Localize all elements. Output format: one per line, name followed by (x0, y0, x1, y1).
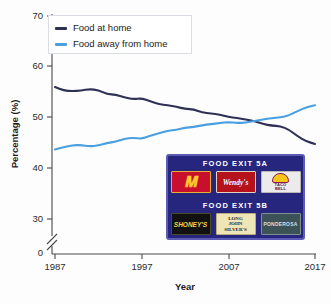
chart-figure: 70 60 50 40 30 0 1987 1997 2007 2017 Per… (0, 0, 331, 304)
taco-bell-line2: BELL (275, 187, 286, 191)
y-tick-label-40: 40 (32, 162, 43, 173)
series-line-food-away-from-home (55, 105, 315, 149)
taco-bell-logo-icon: TACO BELL (261, 171, 301, 193)
wendys-logo-icon: Wendy's (216, 171, 256, 193)
sign-heading-5a: FOOD EXIT 5A (203, 159, 268, 169)
ponderosa-logo-label: PONDEROSA (263, 221, 297, 227)
y-tick-label-60: 60 (32, 60, 43, 71)
legend-item-food-at-home: Food at home (55, 20, 185, 36)
x-tick-label-1997: 1997 (131, 261, 152, 272)
chart-legend: Food at home Food away from home (48, 15, 192, 54)
wendys-logo-label: Wendy's (223, 178, 249, 187)
legend-swatch-icon (55, 43, 67, 46)
y-tick-label-0: 0 (38, 247, 43, 258)
y-tick-label-70: 70 (32, 10, 43, 21)
series-line-food-at-home (55, 87, 315, 144)
ponderosa-logo-icon: PONDEROSA (261, 213, 301, 235)
x-tick-label-2017: 2017 (304, 261, 325, 272)
y-tick-label-50: 50 (32, 111, 43, 122)
legend-label: Food away from home (73, 39, 168, 49)
y-axis-title: Percentage (%) (9, 100, 20, 169)
legend-item-food-away-from-home: Food away from home (55, 36, 185, 52)
ljs-line3: SILVER'S (224, 227, 246, 232)
sign-section-5a: FOOD EXIT 5A 𝑴 Wendy's TACO BELL (172, 159, 299, 193)
mcdonalds-logo-icon: 𝑴 (171, 171, 211, 193)
y-tick-label-30: 30 (32, 213, 43, 224)
x-tick-label-2007: 2007 (218, 261, 239, 272)
legend-label: Food at home (73, 23, 132, 33)
logo-row-5a: 𝑴 Wendy's TACO BELL (171, 171, 301, 193)
golden-arches-icon: 𝑴 (185, 177, 196, 188)
shoneys-logo-icon: SHONEY'S (171, 213, 211, 235)
sign-section-5b: FOOD EXIT 5B SHONEY'S LONG JOHN SILVER'S… (172, 201, 299, 235)
long-john-silvers-logo-icon: LONG JOHN SILVER'S (216, 213, 256, 235)
logo-row-5b: SHONEY'S LONG JOHN SILVER'S PONDEROSA (171, 213, 301, 235)
x-ticks: 1987 1997 2007 2017 (44, 254, 325, 272)
sign-heading-5b: FOOD EXIT 5B (203, 201, 268, 211)
x-axis-title: Year (175, 281, 195, 292)
inset-highway-food-sign: FOOD EXIT 5A 𝑴 Wendy's TACO BELL (166, 154, 305, 240)
legend-swatch-icon (55, 27, 67, 30)
x-tick-label-1987: 1987 (44, 261, 65, 272)
shoneys-logo-label: SHONEY'S (174, 221, 207, 228)
